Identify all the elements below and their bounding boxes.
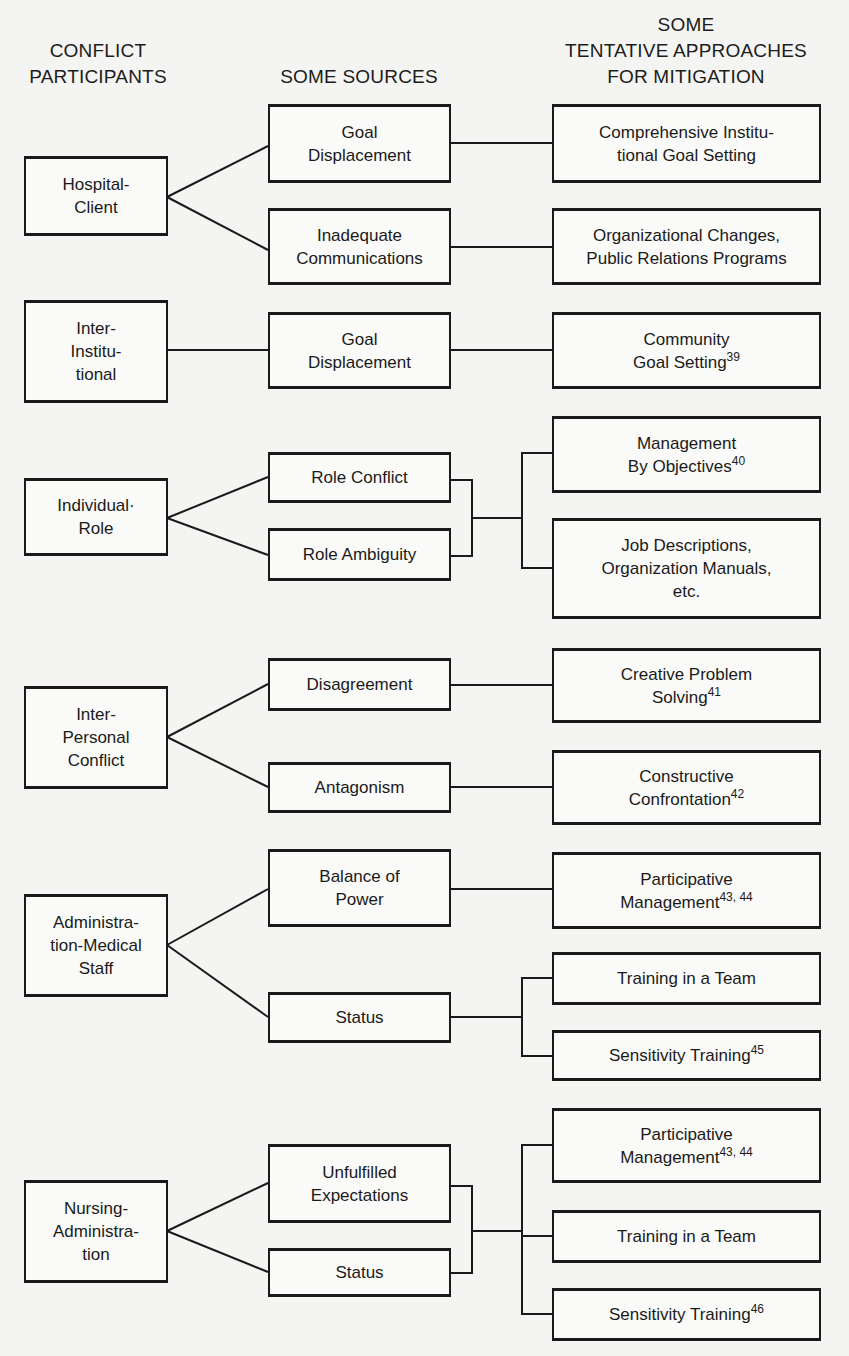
source-disagreement: Disagreement <box>268 658 451 711</box>
participant-inter-personal-conflict: Inter- Personal Conflict <box>24 686 168 789</box>
approach-constructive-confrontation: Constructive Confrontation42 <box>552 750 821 825</box>
source-role-conflict: Role Conflict <box>268 452 451 503</box>
footnote-ref: 43, 44 <box>719 890 752 904</box>
approach-organizational-changes: Organizational Changes, Public Relations… <box>552 208 821 285</box>
footnote-ref: 46 <box>751 1302 764 1316</box>
participant-administration-medical-staff: Administra- tion-Medical Staff <box>24 894 168 997</box>
approach-training-in-a-team: Training in a Team <box>552 952 821 1005</box>
participant-nursing-administration: Nursing- Administra- tion <box>24 1180 168 1283</box>
participant-individual-role: Individual· Role <box>24 478 168 556</box>
approach-comprehensive-goal-setting: Comprehensive Institu- tional Goal Setti… <box>552 104 821 183</box>
approach-community-goal-setting: Community Goal Setting39 <box>552 312 821 389</box>
source-inadequate-communications: Inadequate Communications <box>268 208 451 285</box>
source-balance-of-power: Balance of Power <box>268 849 451 927</box>
footnote-ref: 45 <box>751 1043 764 1057</box>
source-status: Status <box>268 992 451 1043</box>
approach-participative-management: Participative Management43, 44 <box>552 852 821 929</box>
source-unfulfilled-expectations: Unfulfilled Expectations <box>268 1144 451 1223</box>
source-goal-displacement: Goal Displacement <box>268 104 451 183</box>
footnote-ref: 42 <box>731 787 744 801</box>
footnote-ref: 40 <box>732 454 745 468</box>
source-role-ambiguity: Role Ambiguity <box>268 528 451 581</box>
participant-hospital-client: Hospital- Client <box>24 156 168 236</box>
approach-participative-management-2: Participative Management43, 44 <box>552 1108 821 1183</box>
source-antagonism: Antagonism <box>268 762 451 813</box>
approach-sensitivity-training-2: Sensitivity Training46 <box>552 1288 821 1341</box>
approach-job-descriptions: Job Descriptions, Organization Manuals, … <box>552 518 821 619</box>
footnote-ref: 39 <box>727 350 740 364</box>
participant-inter-institutional: Inter- Institu- tional <box>24 300 168 403</box>
approach-creative-problem-solving: Creative Problem Solving41 <box>552 648 821 723</box>
approach-management-by-objectives: Management By Objectives40 <box>552 416 821 493</box>
footnote-ref: 41 <box>708 685 721 699</box>
approach-sensitivity-training: Sensitivity Training45 <box>552 1030 821 1081</box>
source-goal-displacement-2: Goal Displacement <box>268 312 451 389</box>
footnote-ref: 43, 44 <box>719 1145 752 1159</box>
source-status-2: Status <box>268 1248 451 1297</box>
approach-training-in-a-team-2: Training in a Team <box>552 1210 821 1263</box>
